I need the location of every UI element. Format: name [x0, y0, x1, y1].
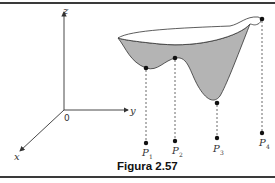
svg-text:1: 1: [149, 153, 153, 160]
plane-point-2: [173, 139, 177, 143]
point-label-3: P 3: [212, 143, 224, 156]
z-axis-label: z: [62, 5, 69, 16]
surface-diagram: z y x 0 P 1 P 2 P 3 P 4: [0, 0, 275, 183]
x-axis: [20, 110, 64, 151]
surface-point-4: [260, 17, 265, 22]
svg-text:2: 2: [179, 151, 183, 158]
svg-text:3: 3: [220, 149, 224, 156]
origin-label: 0: [64, 113, 70, 123]
svg-text:4: 4: [266, 143, 270, 150]
point-label-1: P 1: [141, 147, 153, 160]
surface-point-2: [173, 56, 178, 61]
plane-point-1: [144, 141, 148, 145]
svg-text:P: P: [141, 147, 149, 158]
svg-text:P: P: [258, 137, 266, 148]
x-axis-label: x: [14, 151, 20, 162]
y-axis-label: y: [129, 105, 136, 116]
svg-text:P: P: [171, 145, 179, 156]
point-label-2: P 2: [171, 145, 183, 158]
figure-caption: Figura 2.57: [117, 160, 178, 172]
svg-text:P: P: [212, 143, 220, 154]
point-label-4: P 4: [258, 137, 270, 150]
surface-point-3: [215, 101, 220, 106]
plane-point-3: [215, 136, 219, 140]
plane-point-4: [260, 131, 264, 135]
surface-point-1: [144, 66, 149, 71]
